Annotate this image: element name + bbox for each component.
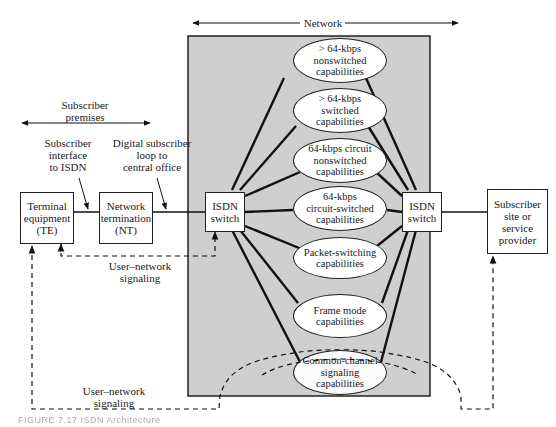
subscriber-site-label: Subscriber site or service provider bbox=[494, 198, 541, 246]
diagram-canvas bbox=[0, 0, 556, 427]
isdn-switch-left-label: ISDN switch bbox=[211, 200, 240, 224]
figure-caption: FIGURE 7.17 ISDN Architecture bbox=[18, 415, 161, 425]
user-network-signaling-upper-label: User–network signaling bbox=[105, 260, 175, 284]
digital-loop-label: Digital subscriber loop to central offic… bbox=[108, 137, 196, 173]
capability-packet-switching: Packet-switching capabilities bbox=[293, 237, 387, 279]
subscriber-site-box: Subscriber site or service provider bbox=[487, 189, 548, 254]
network-termination-label: Network termination (NT) bbox=[101, 200, 152, 236]
capability-gt64-switched: > 64-kbps switched capabilities bbox=[293, 88, 387, 133]
subscriber-interface-label: Subscriber interface to ISDN bbox=[38, 137, 98, 173]
capability-gt64-nonswitched: > 64-kbps nonswitched capabilities bbox=[293, 38, 387, 83]
isdn-switch-left: ISDN switch bbox=[205, 192, 245, 232]
isdn-switch-right-label: ISDN switch bbox=[408, 200, 437, 224]
network-termination-box: Network termination (NT) bbox=[99, 192, 153, 244]
capability-frame-mode: Frame mode capabilities bbox=[293, 294, 387, 338]
subscriber-premises-label: Subscriber premises bbox=[55, 99, 115, 123]
capability-common-channel-signaling: Common-channel signaling capabilities bbox=[293, 350, 387, 395]
terminal-equipment-label: Terminal equipment (TE) bbox=[24, 200, 70, 236]
network-label: Network bbox=[302, 17, 344, 29]
isdn-switch-right: ISDN switch bbox=[402, 192, 442, 232]
capability-64-circuit-switched: 64-kbps circuit-switched capabilities bbox=[293, 186, 387, 231]
user-network-signaling-lower-label: User–network signaling bbox=[79, 385, 149, 409]
capability-64-circuit-nonswitched: 64-kbps circuit nonswitched capabilities bbox=[293, 138, 387, 183]
loop-pointer bbox=[157, 178, 166, 209]
terminal-equipment-box: Terminal equipment (TE) bbox=[20, 192, 74, 244]
interface-pointer bbox=[79, 178, 88, 209]
